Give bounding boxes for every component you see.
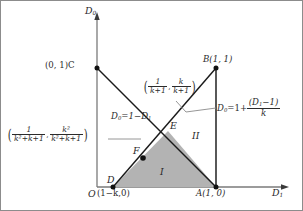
paren-open-e: ( (144, 80, 148, 94)
equation-line-d-b: D0=1+(D1−1)k (217, 98, 280, 118)
point-label-e: E (170, 121, 177, 130)
point-label-d: D (107, 175, 115, 184)
region-one-label: I (160, 167, 164, 176)
coordinate-label-f: ( 1k²+k+1 , k²k²+k+1 ) (7, 126, 88, 143)
point-label-f: F (133, 146, 140, 155)
coordinate-label-e: ( 1k+1 , kk+1 ) (143, 78, 196, 95)
region-two-label: II (192, 131, 199, 140)
paren-close-f: ) (83, 128, 87, 142)
point-coord-d: (1−k,0) (97, 189, 130, 198)
point-label-a: A(1, 0) (196, 189, 225, 198)
point-label-c: (0, 1)C (45, 61, 75, 70)
paren-close-e: ) (191, 80, 195, 94)
origin-label: O (88, 189, 96, 198)
point-dot-f (140, 155, 146, 161)
equation-line-c-a: D0=1−D1 (111, 112, 151, 122)
x-axis-label: D1 (272, 188, 283, 199)
point-dot-b (214, 66, 219, 71)
point-label-b: B(1, 1) (203, 55, 232, 64)
figure-canvas: D0 D1 O (0, 1)C B(1, 1) A(1, 0) D (1−k,0… (0, 0, 303, 211)
point-dot-c (95, 66, 100, 71)
y-axis-label: D0 (85, 6, 96, 17)
paren-open-f: ( (8, 128, 12, 142)
